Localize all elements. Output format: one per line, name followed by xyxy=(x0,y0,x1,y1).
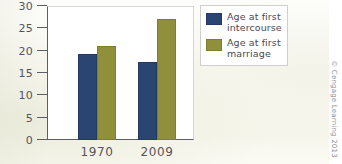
y-axis-tick: 30 xyxy=(37,5,47,6)
legend-label-marriage-line2: marriage xyxy=(227,48,271,59)
y-axis-tick-label: 15 xyxy=(19,68,33,79)
y-axis-tick: 0 xyxy=(37,139,47,140)
legend-label-marriage-line1: Age at first xyxy=(227,37,281,48)
y-axis-tick-label: 5 xyxy=(26,112,33,123)
y-axis-tick-label: 0 xyxy=(26,135,33,146)
legend-label-marriage: Age at firstmarriage xyxy=(227,37,281,59)
y-axis-tick: 20 xyxy=(37,50,47,51)
legend-item-intercourse: Age at firstintercourse xyxy=(206,11,282,33)
legend-swatch-icon-marriage xyxy=(206,39,222,51)
x-axis-tick-label: 2009 xyxy=(141,146,174,158)
bar xyxy=(138,62,157,140)
x-axis-tick-label: 1970 xyxy=(81,146,114,158)
legend-swatch-icon-intercourse xyxy=(206,13,222,25)
legend-label-intercourse-line1: Age at first xyxy=(227,11,281,22)
y-axis-tick-label: 30 xyxy=(19,1,33,12)
legend-label-intercourse-line2: intercourse xyxy=(227,22,282,33)
y-axis-tick-label: 20 xyxy=(19,45,33,56)
bar-groups xyxy=(47,6,194,140)
legend-label-intercourse: Age at firstintercourse xyxy=(227,11,282,33)
y-axis-tick: 5 xyxy=(37,117,47,118)
y-axis-tick-label: 10 xyxy=(19,90,33,101)
chart-legend: Age at firstintercourse Age at firstmarr… xyxy=(200,5,288,66)
bar xyxy=(97,46,116,140)
credit-container: © Cengage Learning 2013 xyxy=(285,96,342,115)
y-axis-tick-label: 25 xyxy=(19,23,33,34)
y-axis-tick: 25 xyxy=(37,27,47,28)
plot-area: 051015202530 19702009 xyxy=(47,6,194,140)
copyright-credit: © Cengage Learning 2013 xyxy=(330,60,338,158)
bar-group xyxy=(136,6,178,140)
bar xyxy=(78,54,97,140)
bar xyxy=(157,19,176,140)
bar-group xyxy=(76,6,118,140)
legend-item-marriage: Age at firstmarriage xyxy=(206,37,282,59)
y-axis-tick: 10 xyxy=(37,94,47,95)
y-axis-tick: 15 xyxy=(37,72,47,73)
